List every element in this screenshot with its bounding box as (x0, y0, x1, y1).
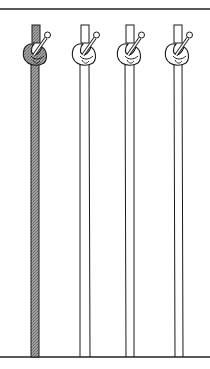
rope-2 (72, 25, 99, 357)
rope-1-shaded (23, 25, 50, 357)
knot-diagram (0, 0, 210, 369)
rope-4 (165, 25, 192, 357)
rope-3 (117, 25, 144, 357)
knot-illustration (0, 0, 210, 369)
